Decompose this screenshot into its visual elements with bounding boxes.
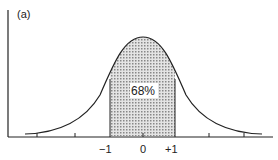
tick-label-plus-one: +1 (165, 143, 178, 155)
percent-label: 68% (131, 84, 155, 98)
tick-label-minus-one: −1 (99, 143, 112, 155)
normal-curve-chart (0, 0, 278, 160)
panel-label: (a) (17, 8, 30, 20)
tick-label-zero: 0 (140, 143, 146, 155)
